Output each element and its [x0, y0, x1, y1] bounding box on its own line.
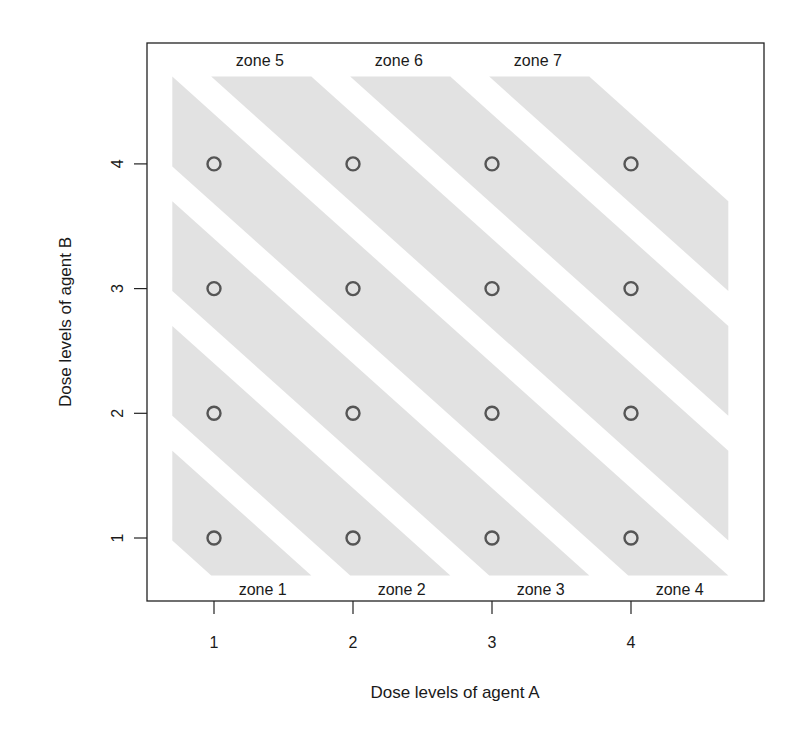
y-tick-label: 4: [109, 159, 126, 168]
zone-label-7: zone 7: [514, 52, 562, 69]
y-tick-label: 2: [109, 409, 126, 418]
y-axis-title: Dose levels of agent B: [56, 237, 75, 407]
zone-label-1: zone 1: [239, 581, 287, 598]
x-axis-title: Dose levels of agent A: [370, 683, 540, 702]
zone-label-2: zone 2: [378, 581, 426, 598]
zone-label-5: zone 5: [236, 52, 284, 69]
x-tick-label: 4: [627, 634, 636, 651]
zone-scatter-chart: zone 1zone 2zone 3zone 4zone 5zone 6zone…: [0, 0, 805, 736]
x-axis: 1234: [210, 601, 636, 651]
zone-label-4: zone 4: [656, 581, 704, 598]
y-tick-label: 1: [109, 533, 126, 542]
zone-label-6: zone 6: [375, 52, 423, 69]
x-tick-label: 3: [488, 634, 497, 651]
y-tick-label: 3: [109, 284, 126, 293]
x-tick-label: 2: [349, 634, 358, 651]
x-tick-label: 1: [210, 634, 219, 651]
zone-bands: [172, 77, 728, 576]
zone-label-3: zone 3: [517, 581, 565, 598]
y-axis: 1234: [109, 159, 147, 542]
